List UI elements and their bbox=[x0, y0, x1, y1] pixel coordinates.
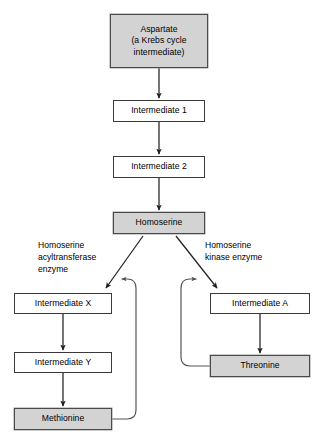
edge-label-homoserine-acyltransferase-enzyme: Homoserine acyltransferase enzyme bbox=[38, 239, 96, 276]
node-homoserine-label: Homoserine bbox=[134, 217, 185, 228]
edge-methionine-feedback bbox=[112, 279, 136, 419]
node-intermediate-a[interactable]: Intermediate A bbox=[210, 293, 310, 314]
node-intermediate-1[interactable]: Intermediate 1 bbox=[113, 100, 205, 122]
node-intermediate-y[interactable]: Intermediate Y bbox=[14, 352, 112, 373]
node-threonine-label: Threonine bbox=[238, 360, 281, 371]
edge-label-homoserine-kinase-enzyme: Homoserine kinase enzyme bbox=[205, 239, 262, 263]
node-threonine[interactable]: Threonine bbox=[210, 355, 310, 377]
node-intermediate-y-label: Intermediate Y bbox=[33, 357, 93, 368]
node-intermediate-x[interactable]: Intermediate X bbox=[14, 293, 112, 314]
node-methionine[interactable]: Methionine bbox=[14, 408, 112, 430]
node-intermediate-a-label: Intermediate A bbox=[230, 298, 290, 309]
node-intermediate-2[interactable]: Intermediate 2 bbox=[113, 156, 205, 178]
node-aspartate[interactable]: Aspartate (a Krebs cycle intermediate) bbox=[110, 14, 208, 68]
node-intermediate-2-label: Intermediate 2 bbox=[129, 161, 189, 172]
pathway-diagram: Aspartate (a Krebs cycle intermediate) I… bbox=[0, 0, 322, 443]
edge-homoserine-to-intermediatex bbox=[106, 236, 143, 288]
node-homoserine[interactable]: Homoserine bbox=[113, 212, 205, 234]
node-methionine-label: Methionine bbox=[40, 413, 87, 424]
node-aspartate-label: Aspartate (a Krebs cycle intermediate) bbox=[129, 24, 188, 58]
node-intermediate-1-label: Intermediate 1 bbox=[129, 105, 189, 116]
edge-threonine-feedback bbox=[181, 279, 210, 366]
node-intermediate-x-label: Intermediate X bbox=[33, 298, 94, 309]
